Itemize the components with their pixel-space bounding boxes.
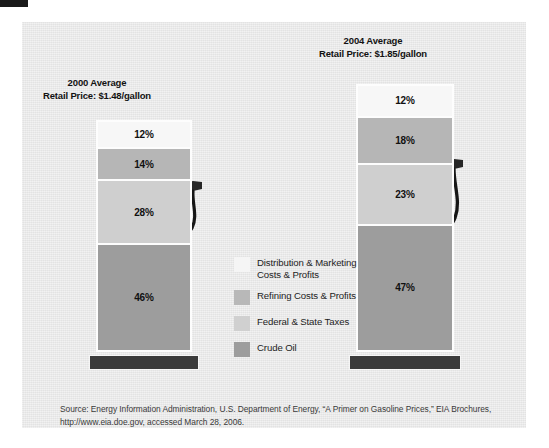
legend-swatch-taxes [234, 316, 250, 331]
bar-segment-label-2000-crude: 46% [134, 292, 154, 303]
stacked-bar-2000: 12% 14% 28% 46% [96, 120, 192, 352]
legend-label-distribution-line1: Distribution & Marketing [257, 257, 356, 268]
legend-label-distribution: Distribution & Marketing Costs & Profits [257, 256, 356, 281]
pump-title-2000-line2: Retail Price: $1.48/gallon [0, 90, 207, 103]
pump-base-2000 [90, 356, 198, 369]
bar-segment-label-2004-refining: 18% [395, 135, 415, 146]
bar-segment-2000-distribution: 12% [98, 122, 190, 149]
source-note-line1: Source: Energy Information Administratio… [60, 403, 520, 416]
pump-title-2000-line1: 2000 Average [0, 77, 207, 90]
legend-item-distribution: Distribution & Marketing Costs & Profits [234, 256, 404, 281]
bar-segment-label-2004-distribution: 12% [395, 95, 415, 106]
source-note: Source: Energy Information Administratio… [60, 403, 520, 429]
bar-segment-label-2000-refining: 14% [134, 159, 154, 170]
legend-swatch-distribution [234, 257, 250, 272]
bar-segment-2004-taxes: 23% [358, 165, 452, 226]
bar-segment-label-2000-distribution: 12% [134, 129, 154, 140]
legend-label-crude: Crude Oil [257, 341, 297, 354]
pump-title-2004: 2004 Average Retail Price: $1.85/gallon [263, 35, 483, 60]
corner-marker-block [0, 0, 28, 7]
legend-label-refining: Refining Costs & Profits [257, 289, 356, 302]
legend-label-distribution-line2: Costs & Profits [257, 269, 356, 281]
chart-legend: Distribution & Marketing Costs & Profits… [234, 256, 404, 366]
bar-segment-label-2004-taxes: 23% [395, 189, 415, 200]
legend-item-taxes: Federal & State Taxes [234, 315, 404, 333]
bar-segment-label-2000-taxes: 28% [134, 207, 154, 218]
legend-item-refining: Refining Costs & Profits [234, 289, 404, 307]
source-note-line2: http://www.eia.doe.gov, accessed March 2… [60, 416, 520, 429]
pump-title-2004-line1: 2004 Average [263, 35, 483, 48]
pump-title-2000: 2000 Average Retail Price: $1.48/gallon [0, 77, 207, 102]
legend-swatch-crude [234, 342, 250, 357]
legend-item-crude: Crude Oil [234, 341, 404, 359]
bar-segment-2000-crude: 46% [98, 245, 190, 350]
figure-panel: 2000 Average Retail Price: $1.48/gallon … [22, 22, 526, 428]
bar-segment-2004-refining: 18% [358, 118, 452, 166]
legend-label-taxes: Federal & State Taxes [257, 315, 349, 328]
bar-segment-2000-taxes: 28% [98, 181, 190, 245]
pump-title-2004-line2: Retail Price: $1.85/gallon [263, 48, 483, 61]
pump-group-2000: 2000 Average Retail Price: $1.48/gallon … [22, 22, 262, 382]
bar-segment-2000-refining: 14% [98, 149, 190, 181]
legend-swatch-refining [234, 290, 250, 305]
bar-segment-2004-distribution: 12% [358, 86, 452, 118]
